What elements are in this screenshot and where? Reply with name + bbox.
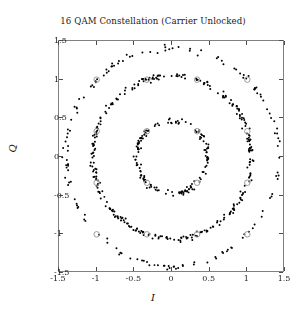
x-tick (96, 267, 97, 271)
x-tick (133, 267, 134, 271)
x-tick-label: -1 (92, 274, 100, 283)
x-tick-top (171, 41, 172, 45)
y-tick (59, 79, 63, 80)
x-tick-label: -0.5 (126, 274, 141, 283)
x-tick-top (96, 41, 97, 45)
y-axis-title: Q (7, 144, 18, 152)
x-tick (209, 267, 210, 271)
x-tick-label: 0 (168, 274, 173, 283)
x-tick-top (209, 41, 210, 45)
x-tick (284, 267, 285, 271)
y-tick-right (279, 79, 283, 80)
y-tick-label: 0.5 (54, 113, 67, 122)
chart-title: 16 QAM Constellation (Carrier Unlocked) (0, 16, 306, 26)
x-tick-label: 0.5 (202, 274, 215, 283)
scatter-canvas (59, 41, 284, 272)
y-tick (59, 156, 63, 157)
y-tick-right (279, 40, 283, 41)
y-tick-right (279, 117, 283, 118)
x-tick-top (246, 41, 247, 45)
y-tick-label: -1 (54, 229, 62, 238)
x-tick-label: 1 (244, 274, 249, 283)
x-tick-label: 1.5 (278, 274, 291, 283)
y-tick-right (279, 156, 283, 157)
y-tick-right (279, 272, 283, 273)
plot-area (58, 40, 284, 272)
y-tick-right (279, 195, 283, 196)
y-tick-label: 1.5 (54, 36, 67, 45)
figure-16qam-constellation: 16 QAM Constellation (Carrier Unlocked) … (0, 0, 306, 318)
y-tick-label: 1 (54, 74, 59, 83)
x-tick (171, 267, 172, 271)
y-tick-label: -1.5 (54, 268, 69, 277)
x-tick (246, 267, 247, 271)
y-tick-right (279, 233, 283, 234)
y-tick-label: -0.5 (54, 190, 69, 199)
x-axis-title: I (0, 292, 306, 303)
x-tick-top (133, 41, 134, 45)
x-tick-top (284, 41, 285, 45)
y-tick-label: 0 (54, 152, 59, 161)
